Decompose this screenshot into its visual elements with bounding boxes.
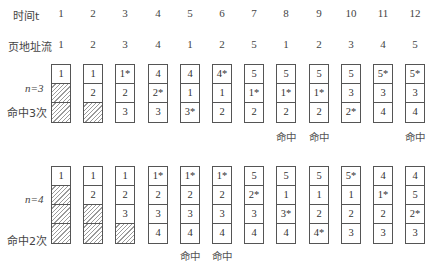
n3-frame-column: 5*34	[405, 64, 425, 123]
page-address-value: 2	[212, 38, 232, 50]
frame-cell: 3	[116, 205, 134, 224]
frame-cell: 2	[310, 205, 328, 224]
frame-cell: 3	[342, 224, 360, 243]
frame-cell: 5*	[406, 65, 424, 84]
page-address-value: 5	[244, 38, 264, 50]
time-label: 时间t	[13, 7, 39, 23]
frame-cell: 2	[84, 186, 102, 205]
frame-cell: 2	[310, 103, 328, 122]
frame-cell: 1*	[277, 84, 295, 103]
n4-frame-column: 513*4	[276, 166, 296, 244]
frame-cell: 5*	[342, 167, 360, 186]
frame-cell: 2	[84, 84, 102, 103]
frame-cell: 4	[213, 224, 231, 243]
frame-cell: 3	[374, 84, 392, 103]
n4-frame-column: 52*34	[244, 166, 264, 244]
frame-cell: 1	[116, 167, 134, 186]
frame-cell: 1*	[181, 167, 199, 186]
frame-cell: 5	[277, 65, 295, 84]
frame-cell: 1	[277, 186, 295, 205]
frame-cell: 3	[374, 224, 392, 243]
empty-frame-cell	[52, 103, 70, 122]
n4-frame-column: 41*23	[373, 166, 393, 244]
frame-cell: 1*	[149, 167, 167, 186]
frame-cell: 1	[52, 65, 70, 84]
frame-cell: 4	[149, 224, 167, 243]
frame-cell: 1	[310, 186, 328, 205]
frame-cell: 4*	[213, 65, 231, 84]
hit-label: 命中	[400, 129, 430, 144]
time-value: 6	[212, 7, 232, 19]
n3-frame-column: 4*12	[212, 64, 232, 123]
frame-cell: 2*	[406, 205, 424, 224]
n4-frame-column: 452*3	[405, 166, 425, 244]
frame-cell: 1*	[116, 65, 134, 84]
page-address-value: 4	[148, 38, 168, 50]
frame-cell: 4	[374, 167, 392, 186]
n4-label: n=4	[25, 193, 43, 205]
time-value: 8	[276, 7, 296, 19]
n4-frame-column: 123	[115, 166, 135, 244]
frame-cell: 3	[181, 205, 199, 224]
frame-cell: 1	[52, 167, 70, 186]
frame-cell: 2*	[342, 103, 360, 122]
hit-label: 命中	[304, 129, 334, 144]
n4-frame-column: 1	[51, 166, 71, 244]
frame-cell: 2	[116, 84, 134, 103]
frame-cell: 2	[181, 186, 199, 205]
n3-frame-column: 42*3	[148, 64, 168, 123]
n3-frame-column: 12	[83, 64, 103, 123]
time-value: 9	[309, 7, 329, 19]
frame-cell: 2*	[245, 186, 263, 205]
page-address-value: 3	[341, 38, 361, 50]
frame-cell: 4	[149, 65, 167, 84]
n4-frame-column: 1*234	[180, 166, 200, 244]
frame-cell: 1	[181, 84, 199, 103]
frame-cell: 3	[406, 224, 424, 243]
frame-cell: 4	[374, 103, 392, 122]
n3-frame-column: 51*2	[244, 64, 264, 123]
time-value: 3	[115, 7, 135, 19]
time-value: 1	[51, 7, 71, 19]
n3-frame-column: 51*2	[309, 64, 329, 123]
time-value: 10	[341, 7, 361, 19]
n4-frame-column: 12	[83, 166, 103, 244]
frame-cell: 3*	[277, 205, 295, 224]
n3-frame-column: 532*	[341, 64, 361, 123]
frame-cell: 5	[277, 167, 295, 186]
empty-frame-cell	[84, 205, 102, 224]
frame-cell: 5	[342, 65, 360, 84]
hit-label: 命中	[175, 248, 205, 263]
frame-cell: 3	[342, 84, 360, 103]
frame-cell: 2	[374, 205, 392, 224]
frame-cell: 3	[149, 205, 167, 224]
frame-cell: 2	[245, 103, 263, 122]
page-address-value: 2	[309, 38, 329, 50]
frame-cell: 4*	[310, 224, 328, 243]
time-value: 7	[244, 7, 264, 19]
frame-cell: 5	[310, 65, 328, 84]
empty-frame-cell	[52, 224, 70, 243]
frame-cell: 1*	[374, 186, 392, 205]
frame-cell: 2	[277, 103, 295, 122]
frame-cell: 1	[84, 167, 102, 186]
page-address-value: 1	[51, 38, 71, 50]
frame-cell: 4	[181, 65, 199, 84]
n3-frame-column: 1*23	[115, 64, 135, 123]
frame-cell: 3	[245, 205, 263, 224]
frame-cell: 1*	[213, 167, 231, 186]
page-address-value: 5	[405, 38, 425, 50]
page-address-value: 4	[373, 38, 393, 50]
frame-cell: 4	[245, 224, 263, 243]
frame-cell: 1	[84, 65, 102, 84]
empty-frame-cell	[52, 186, 70, 205]
hit-label: 命中	[271, 129, 301, 144]
n4-frame-column: 5*123	[341, 166, 361, 244]
n3-frame-column: 5*34	[373, 64, 393, 123]
time-value: 12	[405, 7, 425, 19]
frame-cell: 5	[310, 167, 328, 186]
time-value: 11	[373, 7, 393, 19]
frame-cell: 3	[406, 84, 424, 103]
empty-frame-cell	[52, 205, 70, 224]
frame-cell: 4	[181, 224, 199, 243]
